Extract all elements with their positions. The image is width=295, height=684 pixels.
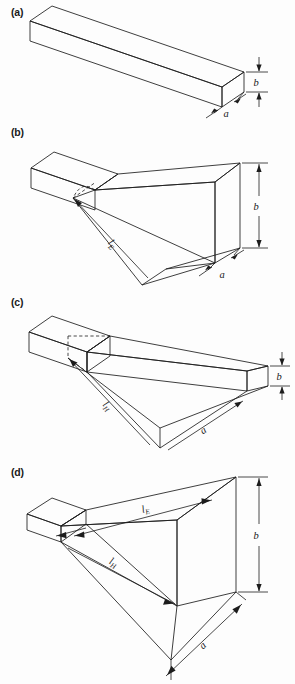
panel-d-drawing: lE lH b a <box>0 452 295 684</box>
panel-c-a-label: a <box>198 424 208 436</box>
lH-arrowhead <box>70 359 78 367</box>
panel-c-b-label: b <box>276 371 281 382</box>
feed-top-face <box>29 316 110 352</box>
a-dim-line <box>168 401 243 450</box>
b-arrow-up <box>256 240 261 248</box>
panel-b-a-label: a <box>219 269 224 280</box>
b-arrow-down <box>256 479 261 487</box>
throat-hidden-edge <box>73 182 96 198</box>
panel-b-label: (b) <box>11 126 24 138</box>
a-dim-line-left <box>206 110 218 118</box>
flare-top-face <box>61 477 236 526</box>
flare-bottom-edges <box>73 198 215 285</box>
a-arrow-upper <box>234 402 242 408</box>
b-arrow-down <box>256 65 261 72</box>
b-arrow-up <box>256 584 261 592</box>
waveguide-top-face <box>30 6 244 87</box>
panel-c-h-plane-horn: (c) lH <box>0 290 295 452</box>
waveguide-front-face <box>30 21 222 107</box>
b-arrow-up <box>279 387 284 394</box>
feed-front-face <box>27 514 61 542</box>
feed-top-face <box>27 498 86 526</box>
a-dim-line <box>166 604 242 676</box>
waveguide-end-face <box>222 72 244 107</box>
panel-d-b-label: b <box>253 530 258 541</box>
lE-arrow-left <box>75 532 85 538</box>
panel-c-drawing: lH a b <box>0 290 295 452</box>
flare-front-panel <box>73 182 215 263</box>
a-extension-right <box>236 592 246 600</box>
panel-a-drawing: b a <box>0 0 295 118</box>
a-dim-left <box>199 267 212 276</box>
panel-b-e-plane-horn: (b) lE <box>0 118 295 290</box>
flare-top-face <box>87 336 268 371</box>
panel-d-pyramidal-horn: (d) lE <box>0 452 295 684</box>
feed-top-face <box>31 152 118 190</box>
panel-c-lH-label: lH <box>99 399 115 415</box>
flare-top-face <box>95 163 240 190</box>
b-arrow-down <box>279 359 284 366</box>
panel-c-label: (c) <box>11 296 23 308</box>
horn-antenna-figure: (a) b a (b) <box>0 0 295 684</box>
panel-d-label: (d) <box>11 466 24 478</box>
panel-a-label: (a) <box>11 6 23 18</box>
lE-leader-line <box>73 198 148 278</box>
panel-a-b-label: b <box>253 77 258 88</box>
flare-lower-edges <box>87 372 247 448</box>
panel-b-b-label: b <box>253 201 258 212</box>
panel-d-lE-label: lE <box>140 502 151 517</box>
flare-lower-front <box>61 542 177 660</box>
flare-bottom-back-edges <box>142 248 240 285</box>
aperture-face <box>177 477 236 606</box>
throat-hidden-curve <box>73 186 95 198</box>
panel-b-drawing: lE b a <box>0 118 295 290</box>
flare-front-wall <box>61 520 177 606</box>
flare-back-lower-edges <box>68 358 268 428</box>
a-arrow-upper <box>232 605 241 614</box>
b-arrow-down <box>256 165 261 173</box>
panel-a-rectangular-waveguide: (a) b a <box>0 0 295 118</box>
aperture-face <box>215 163 240 263</box>
b-arrow-up <box>256 93 261 100</box>
